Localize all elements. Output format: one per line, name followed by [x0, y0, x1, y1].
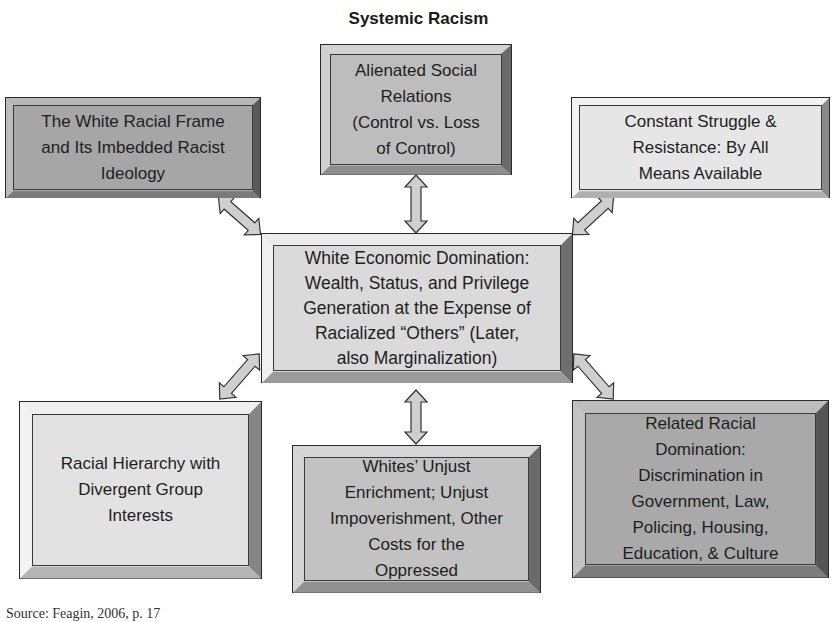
center-label: White Economic Domination: Wealth, Statu…	[303, 246, 531, 371]
node-label: Alienated Social Relations (Control vs. …	[352, 58, 480, 162]
node-center-economic-domination: White Economic Domination: Wealth, Statu…	[261, 233, 573, 383]
source-citation: Source: Feagin, 2006, p. 17	[6, 606, 160, 622]
arrow-center-to-hierarchy	[211, 347, 267, 407]
arrow-center-to-related	[565, 347, 621, 407]
node-label: Racial Hierarchy with Divergent Group In…	[61, 451, 221, 529]
node-label: Whites’ Unjust Enrichment; Unjust Impove…	[330, 454, 503, 584]
node-alienated-social-relations: Alienated Social Relations (Control vs. …	[320, 44, 512, 175]
diagram-title: Systemic Racism	[0, 9, 837, 29]
node-label: The White Racial Frame and Its Imbedded …	[41, 109, 224, 187]
node-white-racial-frame: The White Racial Frame and Its Imbedded …	[5, 97, 261, 198]
node-constant-struggle: Constant Struggle & Resistance: By All M…	[571, 97, 830, 198]
node-unjust-enrichment: Whites’ Unjust Enrichment; Unjust Impove…	[292, 445, 541, 593]
node-related-racial-domination: Related Racial Domination: Discriminatio…	[572, 400, 829, 578]
node-label: Related Racial Domination: Discriminatio…	[623, 411, 779, 567]
node-racial-hierarchy: Racial Hierarchy with Divergent Group In…	[19, 401, 262, 579]
node-label: Constant Struggle & Resistance: By All M…	[624, 109, 776, 187]
arrow-center-to-alienated	[405, 175, 427, 233]
arrow-center-to-enrichment	[405, 390, 427, 444]
